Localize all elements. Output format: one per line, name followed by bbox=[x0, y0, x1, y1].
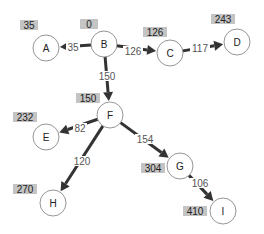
distance-label-I: 410 bbox=[183, 206, 207, 217]
distance-label-F: 150 bbox=[76, 93, 100, 104]
edge-weight-label: 154 bbox=[137, 134, 154, 145]
node-A: A bbox=[33, 35, 59, 61]
node-label: C bbox=[166, 48, 173, 59]
edge-weight-label: 106 bbox=[192, 178, 209, 189]
node-label: F bbox=[107, 110, 113, 121]
edge-weight-label: 35 bbox=[67, 42, 79, 53]
node-E: E bbox=[33, 124, 59, 150]
node-C: C bbox=[157, 40, 183, 66]
node-label: A bbox=[43, 43, 50, 54]
distance-value: 304 bbox=[145, 163, 162, 174]
arrowhead-icon bbox=[147, 45, 157, 55]
edge-weight-label: 126 bbox=[125, 46, 142, 57]
distance-label-G: 304 bbox=[141, 163, 165, 174]
node-label: G bbox=[176, 161, 184, 172]
distance-label-H: 270 bbox=[13, 184, 37, 195]
distance-label-D: 243 bbox=[211, 14, 235, 25]
edge-weight-label: 150 bbox=[99, 71, 116, 82]
edge-F-G: 154 bbox=[121, 123, 169, 158]
distance-value: 243 bbox=[215, 14, 232, 25]
edge-B-A: 35 bbox=[60, 41, 91, 52]
graph-diagram: 3512611715082154120106 ABCDEFGHI 3501262… bbox=[0, 0, 264, 234]
node-D: D bbox=[224, 29, 250, 55]
edge-G-I: 106 bbox=[189, 175, 213, 200]
node-label: D bbox=[233, 37, 240, 48]
edge-C-D: 117 bbox=[183, 41, 223, 54]
node-F: F bbox=[97, 102, 123, 128]
edge-weight-label: 120 bbox=[74, 156, 91, 167]
distance-value: 270 bbox=[17, 184, 34, 195]
node-I: I bbox=[210, 198, 236, 224]
edge-F-E: 82 bbox=[59, 119, 97, 134]
distance-value: 35 bbox=[23, 20, 35, 31]
distance-value: 126 bbox=[147, 27, 164, 38]
distance-value: 150 bbox=[80, 93, 97, 104]
edge-weight-label: 82 bbox=[74, 123, 86, 134]
node-label: H bbox=[49, 198, 56, 209]
distance-label-E: 232 bbox=[13, 112, 37, 123]
arrowhead-icon bbox=[103, 92, 113, 101]
edge-F-H: 120 bbox=[61, 126, 103, 191]
edges-layer: 3512611715082154120106 bbox=[59, 41, 223, 201]
distance-value: 410 bbox=[187, 206, 204, 217]
distance-label-C: 126 bbox=[143, 27, 167, 38]
arrowhead-icon bbox=[213, 41, 223, 51]
distance-label-B: 0 bbox=[80, 19, 98, 30]
distance-value: 0 bbox=[86, 19, 92, 30]
edge-weight-label: 117 bbox=[192, 43, 208, 54]
edge-B-C: 126 bbox=[117, 45, 156, 57]
node-G: G bbox=[167, 153, 193, 179]
node-label: B bbox=[101, 39, 108, 50]
distance-label-A: 35 bbox=[20, 20, 38, 31]
node-H: H bbox=[40, 190, 66, 216]
distance-value: 232 bbox=[17, 112, 34, 123]
node-label: I bbox=[222, 206, 225, 217]
node-label: E bbox=[43, 132, 50, 143]
node-B: B bbox=[91, 31, 117, 57]
